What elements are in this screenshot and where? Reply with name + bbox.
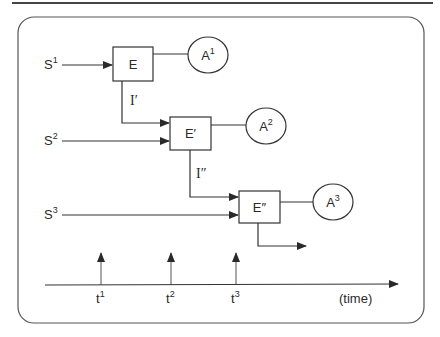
- output-a1-label: A1: [188, 37, 228, 73]
- processor-e-prime-label: E′: [170, 117, 211, 150]
- output-a2-label: A2: [246, 108, 286, 144]
- signal-label-2: S2: [44, 134, 58, 147]
- time-axis-label: (time): [339, 292, 372, 305]
- intermediate-label-2: I″: [196, 167, 207, 181]
- signal-label-1: S1: [44, 58, 58, 71]
- time-axis-arrow: [45, 284, 398, 285]
- time-tick-label-1: t1: [96, 292, 105, 305]
- output-a3-label: A3: [313, 184, 353, 220]
- onward-output-path: [258, 223, 306, 246]
- processor-e-label: E: [113, 47, 153, 81]
- intermediate-label-1: I′: [130, 94, 138, 108]
- time-tick-label-2: t2: [166, 292, 175, 305]
- processor-e-double-prime-label: E″: [239, 191, 280, 223]
- time-tick-label-3: t3: [231, 292, 240, 305]
- signal-label-3: S3: [44, 208, 58, 221]
